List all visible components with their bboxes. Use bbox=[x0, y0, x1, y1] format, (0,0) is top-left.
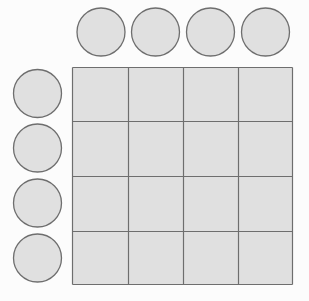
grid-cell-r2-c2 bbox=[129, 122, 184, 177]
left-circle-4 bbox=[14, 234, 62, 282]
top-circle-row bbox=[77, 8, 290, 56]
grid-cell-r3-c3 bbox=[184, 177, 239, 232]
left-circle-1 bbox=[14, 70, 62, 118]
grid-cell-r4-c3 bbox=[184, 232, 239, 285]
grid-cell-r2-c1 bbox=[73, 122, 129, 177]
grid-cell-r4-c2 bbox=[129, 232, 184, 285]
top-circle-3 bbox=[187, 8, 235, 56]
grid-cell-r2-c4 bbox=[239, 122, 293, 177]
grid-cell-r1-c1 bbox=[73, 68, 129, 122]
grid-cell-r3-c2 bbox=[129, 177, 184, 232]
grid-cell-r1-c3 bbox=[184, 68, 239, 122]
left-circle-column bbox=[14, 70, 62, 283]
grid-cell-r2-c3 bbox=[184, 122, 239, 177]
grid-cell-r3-c4 bbox=[239, 177, 293, 232]
left-circle-2 bbox=[14, 124, 62, 172]
grid-diagram bbox=[0, 0, 309, 301]
left-circle-3 bbox=[14, 179, 62, 227]
top-circle-4 bbox=[242, 8, 290, 56]
grid-cell-r1-c2 bbox=[129, 68, 184, 122]
grid-cell-r4-c1 bbox=[73, 232, 129, 285]
four-by-four-grid bbox=[73, 68, 293, 285]
grid-cell-r4-c4 bbox=[239, 232, 293, 285]
top-circle-1 bbox=[77, 8, 125, 56]
grid-cell-r1-c4 bbox=[239, 68, 293, 122]
top-circle-2 bbox=[132, 8, 180, 56]
grid-cell-r3-c1 bbox=[73, 177, 129, 232]
